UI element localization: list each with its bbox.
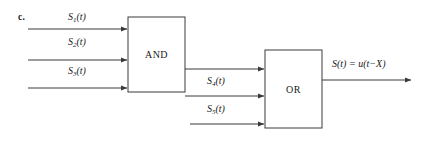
input-label-1-subscript: 1: [73, 16, 77, 24]
input-label-2: S2(t): [68, 36, 86, 47]
input-label-3-suffix: (t): [77, 65, 86, 76]
and-gate-label: AND: [145, 49, 168, 60]
input-label-4-subscript: 4: [212, 80, 216, 88]
or-gate-label: OR: [286, 84, 301, 95]
input-label-2-subscript: 2: [73, 41, 77, 49]
input-label-5-subscript: 5: [212, 108, 216, 116]
input-label-2-suffix: (t): [77, 36, 86, 47]
input-label-4: S4(t): [207, 75, 225, 86]
diagram-canvas: AND OR: [0, 0, 423, 147]
input-label-5: S5(t): [207, 103, 225, 114]
output-signal-label: S(t) = u(t−X): [332, 58, 385, 69]
part-label: c.: [18, 12, 25, 22]
logic-gate-block-diagram: AND OR c. S1(t) S2(t) S3(t) S4(t) S5(t) …: [0, 0, 423, 147]
input-label-5-suffix: (t): [216, 103, 225, 114]
input-label-1-suffix: (t): [77, 11, 86, 22]
input-label-3: S3(t): [68, 65, 86, 76]
input-label-1: S1(t): [68, 11, 86, 22]
input-label-3-subscript: 3: [73, 70, 77, 78]
input-label-4-suffix: (t): [216, 75, 225, 86]
